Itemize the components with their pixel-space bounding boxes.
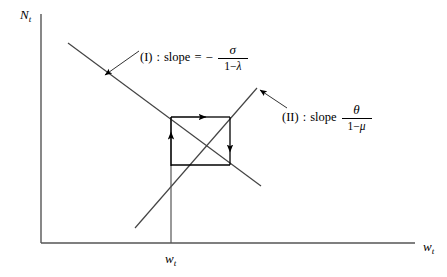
curve-2-name: (II) [282, 111, 299, 124]
diagram-svg [0, 0, 447, 277]
y-axis-label-subscript: t [29, 14, 32, 24]
curve-2-slope-text: slope [310, 111, 336, 124]
annotation-curve-1: (I) : slope = − σ 1−λ [140, 43, 249, 72]
curve-1-slope-text: slope [164, 51, 190, 64]
x-tick-symbol: w [165, 251, 174, 266]
curve-2-numerator: θ [350, 103, 362, 118]
y-axis-label-symbol: N [20, 7, 29, 22]
x-axis-label-subscript: t [432, 246, 435, 256]
curve-1-separator: : [157, 51, 160, 64]
annotation-curve-2: (II) : slope θ 1−μ [282, 103, 373, 132]
curve-1-equals: = [194, 51, 201, 64]
x-axis-label: wt [423, 240, 434, 256]
curve-2-line [135, 88, 257, 228]
x-axis-label-symbol: w [423, 239, 432, 254]
curve-1-denominator: 1−λ [221, 59, 244, 72]
x-axis-tick-label: wt [165, 252, 176, 268]
figure-canvas: Nt wt wt (I) : slope = − σ 1−λ (II) : sl… [0, 0, 447, 277]
curve-1-sign: − [205, 51, 212, 64]
curve-2-fraction: θ 1−μ [342, 103, 372, 132]
curve-1-fraction: σ 1−λ [218, 43, 248, 72]
y-axis-label: Nt [20, 8, 31, 24]
curve-1-den-symbol: λ [236, 60, 241, 72]
pointer-arrow-curve-1 [105, 51, 139, 75]
curve-2-separator: : [303, 111, 306, 124]
curve-2-denominator: 1−μ [345, 119, 369, 132]
curve-2-den-symbol: μ [360, 120, 366, 132]
curve-1-name: (I) [140, 51, 153, 64]
x-tick-subscript: t [174, 258, 177, 268]
curve-1-numerator: σ [227, 43, 239, 58]
